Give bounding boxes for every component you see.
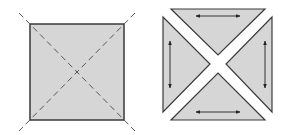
diagram-canvas (0, 0, 285, 135)
right-panel (163, 9, 272, 120)
left-panel (19, 13, 135, 131)
